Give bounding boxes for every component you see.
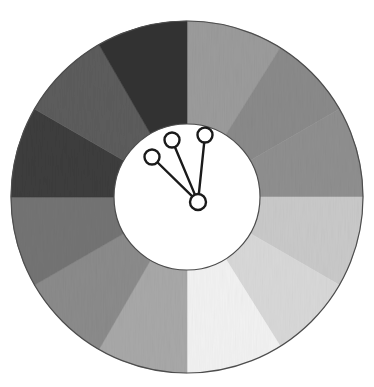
donut-wheel-chart [0,0,374,387]
indicator-hub[interactable] [190,194,206,210]
figure-root: Grayscale segmented donut wheel pie [0,0,374,387]
spoke-node-right[interactable] [198,128,213,143]
inner-white-disc [114,124,260,270]
spoke-node-left[interactable] [145,150,160,165]
spoke-node-middle[interactable] [165,133,180,148]
